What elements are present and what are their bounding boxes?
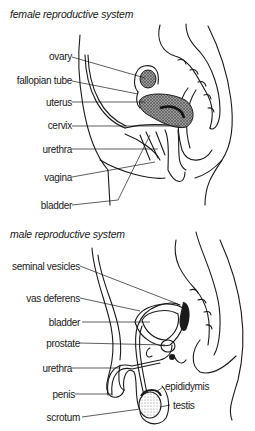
label-male-bladder: bladder [49,317,80,328]
label-testis: testis [173,400,195,411]
label-scrotum: scrotum [47,412,80,423]
male-anatomy-drawing [0,0,255,431]
label-vas-deferens: vas deferens [26,293,80,304]
label-epididymis: epididymis [165,381,209,392]
label-prostate: prostate [46,338,80,349]
label-penis: penis [53,389,75,400]
label-seminal-vesicles: seminal vesicles [12,261,80,272]
label-male-urethra: urethra [42,363,72,374]
